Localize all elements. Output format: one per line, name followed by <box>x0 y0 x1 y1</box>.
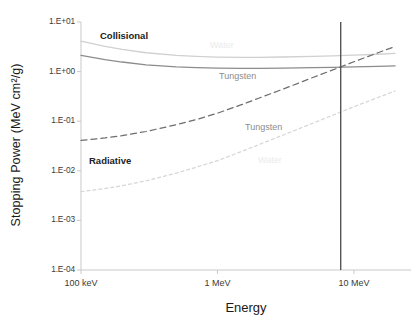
annotation-water-4: Water <box>210 40 234 50</box>
y-tick-label: 1.E-02 <box>29 165 75 175</box>
x-tick-label: 1 MeV <box>182 278 252 288</box>
y-tick-label: 1.E+01 <box>29 16 75 26</box>
y-tick-label: 1.E-03 <box>29 214 75 224</box>
series-line-radiative-tungsten <box>81 47 395 141</box>
annotation-radiative-1: Radiative <box>89 155 131 166</box>
stopping-power-chart: Stopping Power (MeV cm²/g) 1.E+011.E+001… <box>0 0 412 329</box>
y-tick-label: 1.E+00 <box>29 66 75 76</box>
x-tick-label: 10 MeV <box>319 278 389 288</box>
annotation-tungsten-2: Tungsten <box>219 71 256 81</box>
y-tick-label: 1.E-04 <box>29 264 75 274</box>
annotation-water-5: Water <box>258 155 282 165</box>
annotation-tungsten-3: Tungsten <box>245 122 282 132</box>
series-line-collisional-water <box>81 41 395 57</box>
x-axis-title: Energy <box>81 300 411 315</box>
annotation-collisional-0: Collisional <box>100 30 148 41</box>
y-tick-label: 1.E-01 <box>29 115 75 125</box>
x-tick-label: 100 keV <box>46 278 116 288</box>
